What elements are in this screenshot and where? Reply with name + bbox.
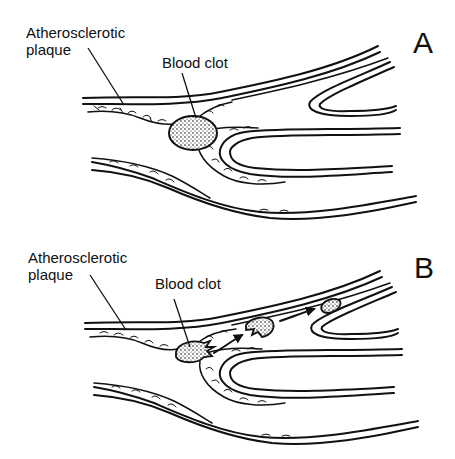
panel-b: Atherosclerotic plaque Blood clot B	[0, 229, 455, 459]
figure: Atherosclerotic plaque Blood clot A	[0, 0, 455, 459]
clot-label-a: Blood clot	[162, 55, 228, 70]
plaque-label-b-line2: plaque	[28, 266, 127, 283]
panel-a: Atherosclerotic plaque Blood clot A	[0, 0, 455, 229]
panel-letter-a: A	[413, 28, 433, 58]
plaque-label-a-line1: Atherosclerotic	[26, 24, 125, 41]
plaque-label-b: Atherosclerotic plaque	[28, 249, 127, 283]
panel-letter-b: B	[414, 253, 434, 283]
plaque-label-b-line1: Atherosclerotic	[28, 249, 127, 266]
clot-label-b: Blood clot	[155, 276, 221, 291]
plaque-label-a-line2: plaque	[26, 41, 125, 58]
plaque-label-a: Atherosclerotic plaque	[26, 24, 125, 58]
